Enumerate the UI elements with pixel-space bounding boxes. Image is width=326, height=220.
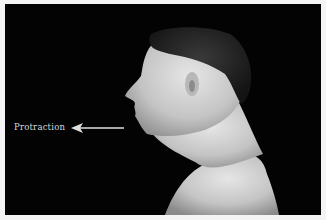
left-arrow-icon (71, 123, 124, 133)
protraction-label: Protraction (14, 122, 65, 132)
man-profile-silhouette (5, 4, 321, 215)
profile-photo: Protraction (5, 4, 321, 215)
